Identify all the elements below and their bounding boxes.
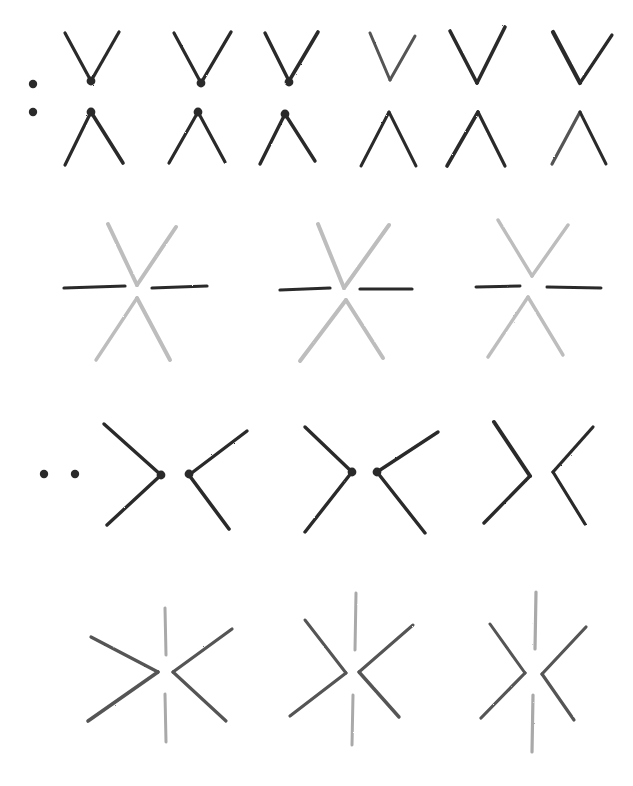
pencil-stroke (553, 32, 580, 83)
vertex-dot (157, 471, 166, 480)
vertex-dot (87, 108, 96, 117)
pencil-stroke (478, 112, 505, 166)
pencil-stroke (285, 114, 315, 161)
figure-rows (29, 27, 612, 752)
pencil-stroke (377, 432, 438, 472)
figure-4-2 (290, 593, 413, 745)
figure-1-1 (65, 32, 123, 165)
pencil-stroke (390, 36, 415, 80)
pencil-stroke (344, 225, 389, 288)
pencil-stroke (289, 32, 318, 81)
pencil-stroke (91, 32, 119, 81)
pencil-stroke (64, 286, 125, 288)
pencil-stroke (318, 224, 344, 288)
figure-3-1 (104, 424, 247, 529)
pencil-stroke (352, 695, 353, 745)
vertex-dot (285, 78, 294, 87)
pencil-stroke (359, 672, 399, 717)
figure-4-1 (88, 608, 232, 742)
pencil-stroke (88, 672, 158, 721)
pencil-stroke (165, 608, 166, 655)
pencil-stroke (532, 695, 533, 752)
pencil-stroke (65, 33, 91, 81)
pencil-stroke (498, 220, 532, 276)
vertex-dot (87, 77, 96, 86)
figure-2-1 (64, 224, 207, 360)
pencil-stroke (96, 298, 137, 360)
figure-4-3 (481, 592, 586, 752)
pencil-stroke (477, 27, 505, 83)
pencil-stroke (359, 625, 413, 672)
pencil-stroke (547, 287, 601, 288)
pencil-stroke (65, 112, 91, 165)
pencil-stroke (189, 431, 247, 475)
pencil-stroke (201, 32, 231, 83)
pencil-stroke (107, 475, 161, 525)
figure-3-3 (484, 422, 593, 524)
vertex-dot (197, 79, 206, 88)
pencil-stroke (91, 637, 158, 672)
pencil-stroke (290, 673, 346, 716)
pencil-stroke (476, 286, 520, 287)
vertex-dot (373, 468, 382, 477)
figure-1-4 (361, 33, 416, 166)
pencil-stroke (370, 33, 390, 80)
pencil-stroke (553, 427, 593, 472)
figure-2-3 (476, 220, 601, 357)
pencil-stroke (355, 593, 356, 650)
marker-dot (40, 470, 48, 478)
pencil-stroke (280, 288, 330, 290)
vertex-dot (185, 470, 194, 479)
row-4-chevrons-with-vertical-lines (88, 592, 586, 752)
pencil-stroke (300, 300, 346, 361)
pencil-stroke (91, 112, 123, 163)
pencil-stroke (481, 673, 525, 718)
pencil-stroke (580, 112, 606, 164)
pencil-stroke (108, 224, 137, 285)
pencil-stroke (173, 672, 226, 721)
pencil-stroke (532, 225, 568, 276)
pencil-sketch-diagram (0, 0, 633, 786)
figure-1-5 (447, 27, 505, 166)
pencil-stroke (305, 620, 346, 673)
figure-3-2 (305, 427, 438, 533)
marker-dot (29, 80, 37, 88)
pencil-stroke (173, 629, 232, 672)
pencil-stroke (346, 300, 383, 358)
figure-1-3 (260, 32, 318, 164)
figure-1-6 (552, 32, 612, 164)
drawing-canvas: Pencil stroke construction exercises (0, 0, 633, 786)
pencil-stroke (542, 674, 574, 720)
marker-dot (71, 470, 79, 478)
pencil-stroke (528, 297, 563, 355)
pencil-stroke (389, 112, 416, 166)
pencil-stroke (535, 592, 536, 649)
pencil-stroke (265, 33, 289, 81)
row-2-six-point-star (64, 220, 601, 361)
pencil-stroke (553, 472, 585, 524)
pencil-stroke (104, 424, 161, 475)
pencil-stroke (305, 427, 352, 472)
pencil-stroke (552, 112, 580, 164)
pencil-stroke (447, 112, 478, 166)
pencil-stroke (137, 227, 176, 285)
pencil-stroke (542, 627, 586, 674)
pencil-stroke (494, 422, 530, 476)
vertex-dot (348, 468, 357, 477)
pencil-stroke (165, 694, 166, 742)
pencil-stroke (152, 286, 207, 288)
pencil-stroke (361, 112, 389, 166)
pencil-stroke (189, 475, 229, 529)
marker-dot (29, 108, 37, 116)
pencil-stroke (260, 114, 285, 164)
vertex-dot (281, 110, 290, 119)
pencil-stroke (198, 112, 225, 162)
pencil-stroke (377, 472, 425, 533)
pencil-stroke (488, 297, 528, 357)
pencil-stroke (484, 476, 530, 523)
pencil-stroke (580, 35, 612, 83)
figure-2-2 (280, 224, 412, 361)
pencil-stroke (169, 112, 198, 163)
pencil-stroke (174, 33, 201, 83)
figure-1-2 (169, 32, 231, 163)
